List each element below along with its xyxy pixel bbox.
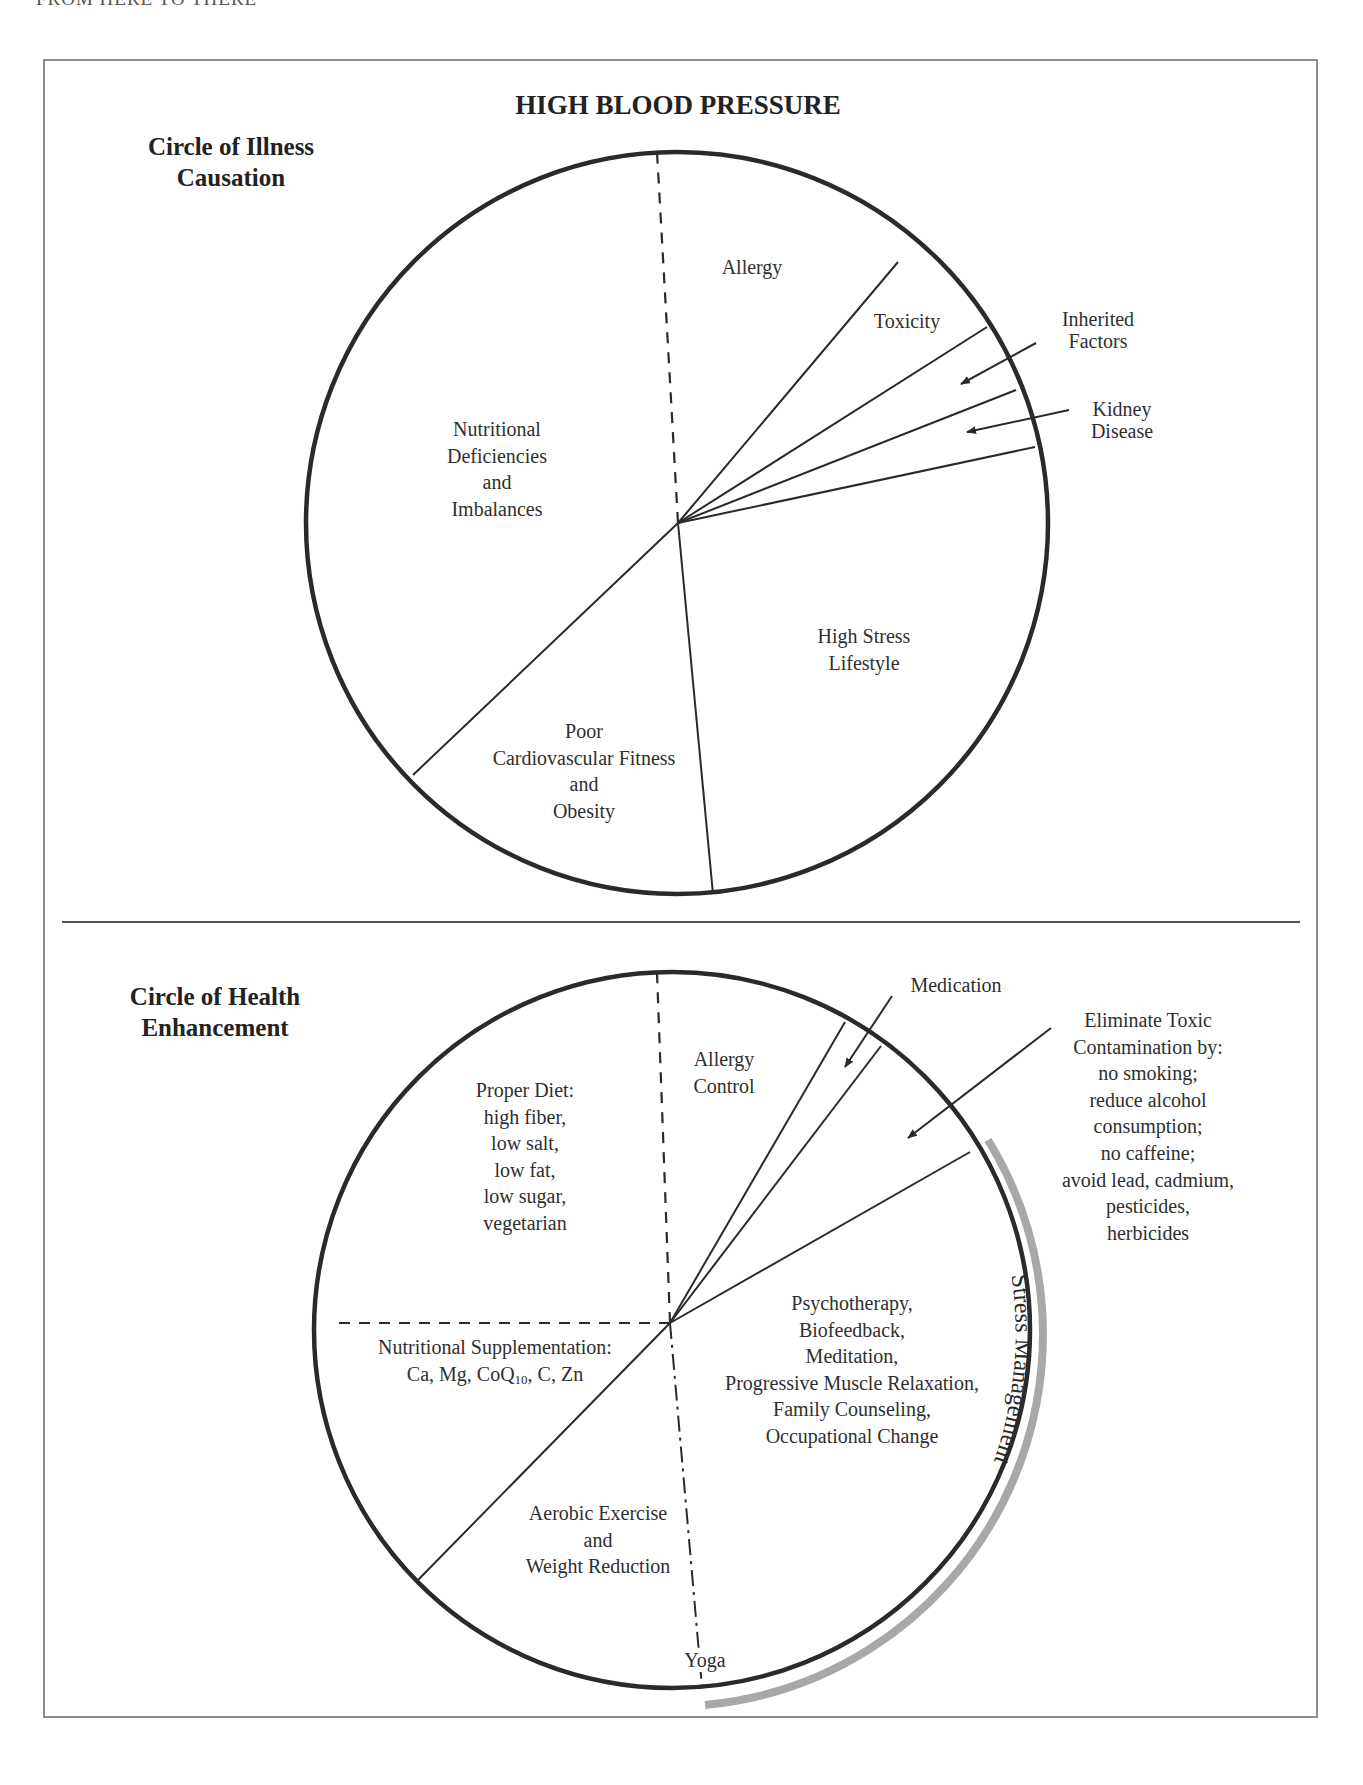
segment-kidney-disease: Kidney Disease bbox=[1091, 398, 1153, 442]
illness-pie bbox=[306, 152, 1069, 894]
segment-toxicity: Toxicity bbox=[874, 308, 940, 335]
health-heading: Circle of Health Enhancement bbox=[130, 981, 300, 1043]
segment-poor-fitness: Poor Cardiovascular Fitness and Obesity bbox=[493, 718, 676, 824]
inherited-arrow bbox=[961, 343, 1036, 384]
segment-nutritional-deficiencies: Nutritional Deficiencies and Imbalances bbox=[447, 416, 547, 522]
page-title: HIGH BLOOD PRESSURE bbox=[515, 90, 841, 121]
segment-allergy-control: Allergy Control bbox=[693, 1046, 754, 1099]
segment-inherited-factors: Inherited Factors bbox=[1062, 308, 1134, 352]
segment-eliminate-toxic: Eliminate Toxic Contamination by: no smo… bbox=[1062, 1007, 1234, 1246]
medication-arrow bbox=[845, 996, 892, 1067]
segment-nutritional-supplementation: Nutritional Supplementation: Ca, Mg, CoQ… bbox=[378, 1334, 612, 1387]
segment-stress-therapies: Psychotherapy, Biofeedback, Meditation, … bbox=[725, 1290, 979, 1450]
segment-aerobic-exercise: Aerobic Exercise and Weight Reduction bbox=[526, 1500, 670, 1580]
segment-proper-diet: Proper Diet: high fiber, low salt, low f… bbox=[476, 1077, 574, 1237]
segment-yoga: Yoga bbox=[684, 1648, 725, 1672]
segment-allergy: Allergy bbox=[722, 254, 783, 281]
segment-high-stress: High Stress Lifestyle bbox=[818, 623, 911, 676]
segment-medication: Medication bbox=[910, 972, 1001, 999]
diagram-canvas: Stress Management bbox=[0, 0, 1363, 1785]
illness-heading: Circle of Illness Causation bbox=[148, 131, 314, 193]
kidney-arrow bbox=[967, 410, 1069, 432]
